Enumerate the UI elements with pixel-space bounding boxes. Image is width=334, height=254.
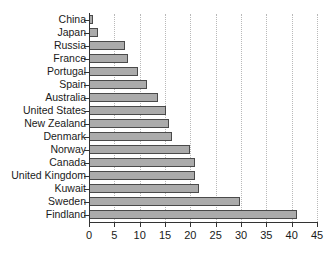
- plot-area: [89, 14, 317, 222]
- bar: [89, 106, 166, 115]
- bar: [89, 41, 125, 50]
- gridline-30: [241, 14, 242, 222]
- y-axis-line: [89, 13, 90, 223]
- bar: [89, 67, 138, 76]
- bar: [89, 28, 98, 37]
- bar-chart: ChinaJapanRussiaFrancePortugalSpainAustr…: [0, 0, 334, 254]
- y-tick: [84, 20, 89, 21]
- x-tick-label: 35: [260, 229, 272, 241]
- x-tick: [89, 222, 90, 227]
- bar: [89, 210, 297, 219]
- x-tick: [165, 222, 166, 227]
- x-tick: [317, 222, 318, 227]
- gridline-25: [216, 14, 217, 222]
- category-label: United Kingdom: [11, 170, 86, 181]
- category-label: Russia: [54, 40, 86, 51]
- category-label: Sweden: [48, 196, 86, 207]
- category-label: Norway: [50, 144, 86, 155]
- bar: [89, 145, 190, 154]
- x-tick: [114, 222, 115, 227]
- x-tick-label: 40: [286, 229, 298, 241]
- category-label: Spain: [59, 79, 86, 90]
- x-tick-label: 45: [311, 229, 323, 241]
- category-label: New Zealand: [24, 118, 86, 129]
- y-tick: [84, 150, 89, 151]
- y-tick: [84, 176, 89, 177]
- y-tick: [84, 189, 89, 190]
- bar: [89, 184, 199, 193]
- x-tick-label: 5: [111, 229, 117, 241]
- gridline-35: [266, 14, 267, 222]
- x-tick-label: 25: [210, 229, 222, 241]
- y-axis-labels: ChinaJapanRussiaFrancePortugalSpainAustr…: [0, 0, 86, 254]
- y-tick: [84, 124, 89, 125]
- x-tick: [216, 222, 217, 227]
- category-label: Kuwait: [54, 183, 86, 194]
- category-label: United States: [23, 105, 86, 116]
- category-label: Denmark: [43, 131, 86, 142]
- bar: [89, 171, 195, 180]
- category-label: Portugal: [47, 66, 86, 77]
- x-tick-label: 0: [86, 229, 92, 241]
- bar: [89, 132, 172, 141]
- y-tick: [84, 72, 89, 73]
- bar: [89, 197, 240, 206]
- x-tick-label: 15: [159, 229, 171, 241]
- y-tick: [84, 163, 89, 164]
- category-label: France: [53, 53, 86, 64]
- bar: [89, 54, 128, 63]
- x-tick-label: 20: [184, 229, 196, 241]
- category-label: Findland: [46, 209, 86, 220]
- bar: [89, 80, 147, 89]
- y-tick: [84, 98, 89, 99]
- y-tick: [84, 59, 89, 60]
- y-tick: [84, 202, 89, 203]
- y-tick: [84, 33, 89, 34]
- x-tick: [266, 222, 267, 227]
- y-tick: [84, 137, 89, 138]
- category-label: Australia: [45, 92, 86, 103]
- y-tick: [84, 85, 89, 86]
- y-tick: [84, 215, 89, 216]
- category-label: Canada: [49, 157, 86, 168]
- x-axis-line: [89, 222, 318, 223]
- gridline-45: [317, 14, 318, 222]
- x-tick: [292, 222, 293, 227]
- category-label: China: [59, 14, 86, 25]
- bar: [89, 119, 169, 128]
- bar: [89, 93, 158, 102]
- y-tick: [84, 111, 89, 112]
- category-label: Japan: [57, 27, 86, 38]
- gridline-40: [292, 14, 293, 222]
- x-tick: [190, 222, 191, 227]
- x-tick-label: 30: [235, 229, 247, 241]
- y-tick: [84, 46, 89, 47]
- x-tick: [140, 222, 141, 227]
- bar: [89, 158, 195, 167]
- x-tick-label: 10: [134, 229, 146, 241]
- x-tick: [241, 222, 242, 227]
